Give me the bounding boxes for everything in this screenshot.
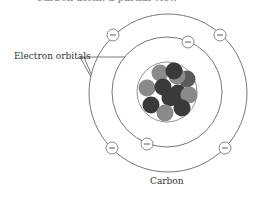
electron-outer-bottom-left xyxy=(106,142,118,154)
carbon-atom-diagram xyxy=(0,0,254,200)
electron-outer-top-right xyxy=(214,29,226,41)
nucleus xyxy=(137,62,198,122)
electron-inner-bottom xyxy=(141,138,153,150)
carbon-label: Carbon xyxy=(150,176,184,186)
electron-orbitals-label: Electron orbitals xyxy=(14,51,91,61)
electron-inner-top xyxy=(182,36,194,48)
electron-outer-bottom-right xyxy=(219,142,231,154)
electron-outer-top-left xyxy=(107,29,119,41)
